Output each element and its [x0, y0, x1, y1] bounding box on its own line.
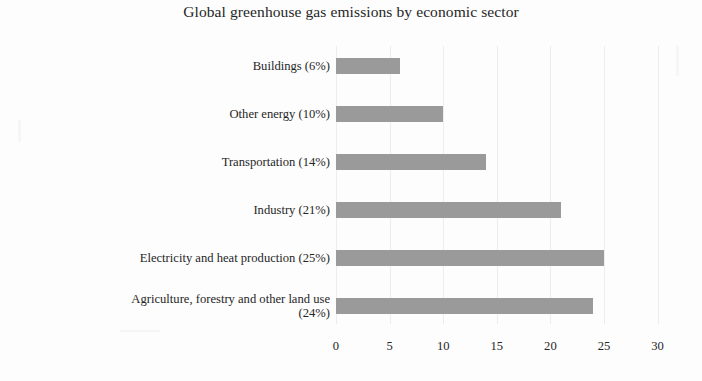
category-label: Buildings (6%)	[253, 59, 330, 73]
x-tick-label-5: 5	[360, 339, 420, 354]
x-tick-label-20: 20	[520, 339, 580, 354]
x-tick-label-0: 0	[306, 339, 366, 354]
bar	[336, 58, 400, 74]
bar	[336, 250, 604, 266]
bar	[336, 298, 593, 314]
category-label: Agriculture, forestry and other land use…	[131, 292, 330, 320]
x-tick-label-10: 10	[413, 339, 473, 354]
gridline-10	[443, 46, 444, 324]
paper-speckle	[120, 330, 160, 332]
category-label: Industry (21%)	[253, 203, 330, 217]
gridline-0	[336, 46, 337, 324]
gridline-15	[497, 46, 498, 324]
category-label: Electricity and heat production (25%)	[140, 251, 330, 265]
gridline-30	[658, 46, 659, 324]
paper-speckle	[18, 120, 21, 142]
gridline-5	[390, 46, 391, 324]
x-tick-label-25: 25	[574, 339, 634, 354]
paper-speckle	[676, 46, 679, 76]
bar	[336, 202, 561, 218]
gridline-20	[550, 46, 551, 324]
plot-area	[336, 46, 658, 324]
chart-title: Global greenhouse gas emissions by econo…	[0, 3, 702, 21]
bar	[336, 154, 486, 170]
x-tick-label-30: 30	[628, 339, 688, 354]
category-label: Other energy (10%)	[230, 107, 330, 121]
bar	[336, 106, 443, 122]
gridline-25	[604, 46, 605, 324]
category-label: Transportation (14%)	[222, 155, 330, 169]
x-tick-label-15: 15	[467, 339, 527, 354]
chart-figure: Global greenhouse gas emissions by econo…	[0, 0, 702, 381]
